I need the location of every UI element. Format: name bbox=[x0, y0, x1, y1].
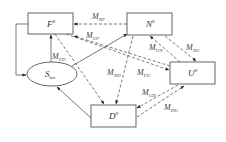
label-m-ud: MUD bbox=[141, 88, 156, 98]
label-m-fd: MFD bbox=[51, 52, 66, 62]
label-m-un: MUN bbox=[148, 43, 163, 53]
label-m-uf: MUF bbox=[85, 31, 100, 41]
label-m-nu: MNU bbox=[185, 43, 200, 53]
label-m-nd: MND bbox=[106, 68, 121, 78]
flow-diagram: F0 N0 U0 D0 Skm MNF MUF MFD MUN MNU MND … bbox=[0, 0, 226, 142]
edge-f-to-s bbox=[16, 24, 28, 75]
label-m-fu: MFU bbox=[136, 68, 151, 78]
label-m-nf: MNF bbox=[91, 12, 106, 22]
edge-d-to-s bbox=[57, 87, 91, 118]
node-s bbox=[27, 62, 77, 86]
label-m-du: MDU bbox=[163, 103, 178, 113]
edge-n-to-d bbox=[116, 36, 133, 104]
